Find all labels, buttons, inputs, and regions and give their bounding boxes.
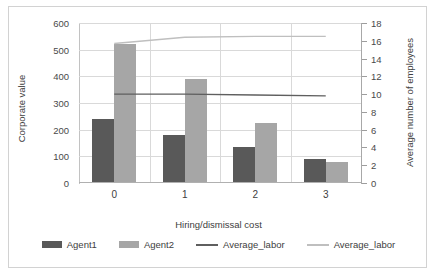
- legend-label: Average_labor: [334, 239, 396, 250]
- y-axis-right-tick-label: 18: [371, 18, 401, 29]
- y-axis-left-tick-label: 600: [29, 18, 69, 29]
- legend-line-icon: [196, 244, 218, 246]
- legend-item-0[interactable]: Agent1: [42, 239, 97, 250]
- y-axis-left-tick-label: 500: [29, 44, 69, 55]
- line-series-layer: [79, 23, 361, 183]
- y-axis-left-tick-label: 300: [29, 98, 69, 109]
- y-axis-right-tick-label: 4: [371, 142, 401, 153]
- y-axis-right-tick-mark: [362, 112, 367, 113]
- y-axis-right-tick-label: 8: [371, 106, 401, 117]
- y-axis-right-title: Average number of employees: [404, 33, 415, 173]
- y-axis-right-tick-mark: [362, 94, 367, 95]
- line-average_labor-right: [114, 94, 326, 96]
- y-axis-right-tick-label: 16: [371, 35, 401, 46]
- y-axis-right-tick-label: 14: [371, 53, 401, 64]
- y-axis-right-line: [361, 23, 362, 184]
- y-axis-left-tick-label: 400: [29, 71, 69, 82]
- y-axis-right-tick-label: 2: [371, 160, 401, 171]
- y-axis-right-tick-mark: [362, 147, 367, 148]
- legend-item-3[interactable]: Average_labor: [307, 239, 396, 250]
- y-axis-right-tick-mark: [362, 59, 367, 60]
- x-axis-tick-label: 3: [306, 189, 346, 200]
- y-axis-left-tick-label: 200: [29, 124, 69, 135]
- x-axis-title: Hiring/dismissal cost: [9, 219, 428, 230]
- y-axis-right-tick-mark: [362, 23, 367, 24]
- legend-label: Average_labor: [223, 239, 285, 250]
- y-axis-left-tick-label: 100: [29, 151, 69, 162]
- y-axis-right-tick-mark: [362, 165, 367, 166]
- y-axis-left-tick-label: 0: [29, 178, 69, 189]
- x-axis-baseline: [79, 182, 361, 183]
- x-axis-tick-label: 0: [94, 189, 134, 200]
- chart-container: Corporate value Average number of employ…: [8, 6, 427, 268]
- y-axis-right-tick-mark: [362, 41, 367, 42]
- y-axis-left-title: Corporate value: [16, 54, 27, 164]
- y-axis-right-tick-label: 6: [371, 124, 401, 135]
- plot-area: [79, 23, 361, 183]
- x-axis-tick-label: 1: [165, 189, 205, 200]
- legend-label: Agent1: [67, 239, 97, 250]
- legend-label: Agent2: [144, 239, 174, 250]
- y-axis-right-tick-label: 0: [371, 178, 401, 189]
- legend-line-icon: [307, 244, 329, 246]
- legend-item-1[interactable]: Agent2: [119, 239, 174, 250]
- y-axis-right-tick-mark: [362, 76, 367, 77]
- y-axis-right-tick-label: 10: [371, 89, 401, 100]
- y-axis-right-tick-mark: [362, 183, 367, 184]
- y-axis-right-tick-mark: [362, 130, 367, 131]
- legend-swatch-icon: [119, 241, 139, 248]
- line-average_labor-right: [114, 36, 326, 43]
- x-axis-tick-label: 2: [235, 189, 275, 200]
- chart-legend: Agent1Agent2Average_laborAverage_labor: [9, 239, 428, 250]
- y-axis-right-tick-label: 12: [371, 71, 401, 82]
- legend-swatch-icon: [42, 241, 62, 248]
- legend-item-2[interactable]: Average_labor: [196, 239, 285, 250]
